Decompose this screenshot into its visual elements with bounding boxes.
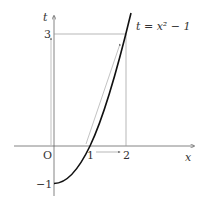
tick-label-t-1: −1 — [36, 178, 52, 191]
tick-label-t3: 3 — [44, 28, 51, 41]
tick-label-x1: 1 — [87, 149, 94, 162]
graph: t 3 −1 O 1 2 x t = x² − 1 — [0, 0, 206, 208]
tick-label-x2: 2 — [123, 149, 130, 162]
arrow-along-curve — [86, 44, 120, 144]
curve-equation-label: t = x² − 1 — [136, 20, 190, 33]
x-axis-label: x — [185, 151, 192, 164]
origin-label: O — [43, 149, 52, 162]
t-axis-label: t — [43, 11, 48, 24]
